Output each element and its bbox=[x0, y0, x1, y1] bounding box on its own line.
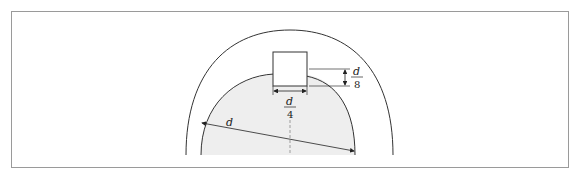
diameter-label: d bbox=[226, 116, 233, 129]
square-key bbox=[273, 52, 307, 86]
key-depth-denominator: 8 bbox=[354, 79, 360, 90]
shaft-key-diagram: d d 4 d 8 bbox=[0, 0, 583, 180]
key-width-denominator: 4 bbox=[287, 109, 293, 120]
key-width-numerator: d bbox=[286, 95, 293, 108]
key-depth-numerator: d bbox=[353, 65, 360, 78]
